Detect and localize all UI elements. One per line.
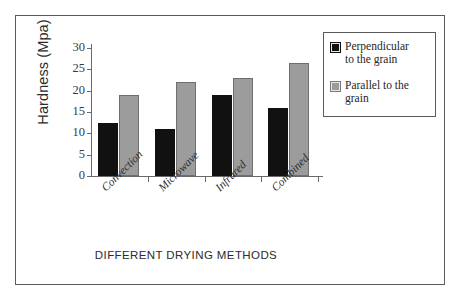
y-axis-line	[91, 44, 92, 176]
y-axis-tick-label: 15	[45, 104, 85, 119]
y-axis-tick	[87, 112, 92, 113]
legend-label: Perpendicularto the grain	[345, 40, 409, 66]
plot-area: 302520151050 ConvectionMicrowaveInfrared…	[91, 48, 318, 176]
bar[interactable]	[212, 95, 232, 176]
x-axis-separator	[148, 176, 149, 182]
x-axis-separator	[261, 176, 262, 182]
y-axis-tick	[87, 155, 92, 156]
x-axis-separator	[205, 176, 206, 182]
x-axis-separator	[318, 176, 319, 182]
y-axis-tick-label: 5	[45, 147, 85, 162]
y-axis-tick-label: 20	[45, 83, 85, 98]
legend-row[interactable]: Perpendicularto the grain	[331, 40, 430, 66]
chart-figure-frame: Hardness (Mpa) 302520151050 ConvectionMi…	[15, 15, 445, 285]
bar[interactable]	[268, 108, 288, 176]
gray-square-icon	[331, 82, 340, 91]
y-axis-tick-label: 30	[45, 40, 85, 55]
y-axis-tick	[87, 133, 92, 134]
legend-label: Parallel to thegrain	[345, 79, 409, 105]
legend-row[interactable]: Parallel to thegrain	[331, 79, 430, 105]
y-axis-tick	[87, 176, 92, 177]
x-axis-title: DIFFERENT DRYING METHODS	[36, 249, 336, 261]
y-axis-tick	[87, 69, 92, 70]
y-axis-tick-label: 10	[45, 125, 85, 140]
y-axis-tick-label: 0	[45, 168, 85, 183]
chart-legend: Perpendicularto the grainParallel to the…	[323, 32, 436, 117]
y-axis-tick-label: 25	[45, 61, 85, 76]
black-square-icon	[331, 43, 340, 52]
y-axis-tick	[87, 91, 92, 92]
y-axis-tick	[87, 48, 92, 49]
